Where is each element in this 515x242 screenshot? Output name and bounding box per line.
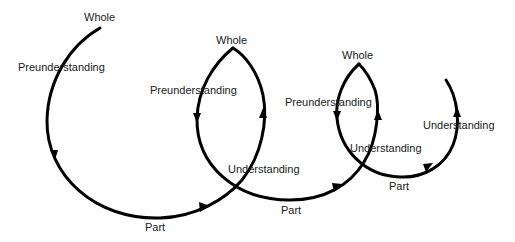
arrow-down-icon xyxy=(193,113,201,123)
arrow-up-icon xyxy=(374,110,382,120)
label-understanding-1: Understanding xyxy=(228,164,300,175)
label-whole-2: Whole xyxy=(216,35,247,46)
arrow-up-icon xyxy=(453,107,461,117)
label-part-1: Part xyxy=(145,222,165,233)
label-part-2: Part xyxy=(281,205,301,216)
label-part-3: Part xyxy=(389,181,409,192)
label-whole-3: Whole xyxy=(342,50,373,61)
label-preunderstanding-3: Preunderstanding xyxy=(285,97,372,108)
arrow-down-icon xyxy=(333,111,341,121)
label-understanding-3: Understanding xyxy=(423,120,495,131)
spiral-loop-1 xyxy=(47,28,265,218)
label-preunderstanding-2: Preunderstanding xyxy=(150,85,237,96)
label-understanding-2: Understanding xyxy=(350,143,422,154)
hermeneutic-spiral-diagram: Whole Preunderstanding Part Whole Preund… xyxy=(0,0,515,242)
label-preunderstanding-1: Preunderstanding xyxy=(18,62,105,73)
label-whole-1: Whole xyxy=(84,12,115,23)
